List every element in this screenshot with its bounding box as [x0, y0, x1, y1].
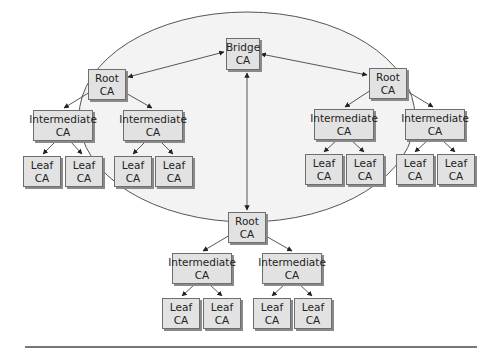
ca-label: CA [306, 314, 321, 327]
leaf-label: Leaf [170, 301, 192, 314]
root-label: Root [95, 72, 119, 85]
ca-label: CA [174, 314, 189, 327]
leaf-label: Leaf [261, 301, 283, 314]
ca-label: CA [381, 84, 396, 97]
left-intermediate-ca-box-1: Intermediate CA [33, 110, 93, 141]
leaf-label: Leaf [73, 159, 95, 172]
left-leaf-ca-box-1: Leaf CA [23, 156, 61, 187]
ca-label: CA [337, 125, 352, 138]
left-leaf-ca-box-2: Leaf CA [65, 156, 103, 187]
ca-label: CA [77, 172, 92, 185]
ca-label: CA [285, 269, 300, 282]
bottom-intermediate-ca-box-1: Intermediate CA [172, 253, 232, 284]
bottom-leaf-ca-box-1: Leaf CA [162, 298, 200, 329]
left-leaf-ca-box-3: Leaf CA [114, 156, 152, 187]
ca-label: CA [449, 170, 464, 183]
intermediate-label: Intermediate [310, 112, 378, 125]
ca-label: CA [35, 172, 50, 185]
left-intermediate-ca-box-2: Intermediate CA [123, 110, 183, 141]
leaf-label: Leaf [163, 159, 185, 172]
ca-label: CA [100, 85, 115, 98]
ca-label: CA [428, 125, 443, 138]
right-leaf-ca-box-4: Leaf CA [437, 154, 475, 185]
right-intermediate-ca-box-1: Intermediate CA [314, 109, 374, 140]
right-intermediate-ca-box-2: Intermediate CA [405, 109, 465, 140]
bridge-ca-label-1: Bridge [226, 41, 260, 54]
left-root-ca-box: Root CA [88, 69, 126, 100]
bridge-ca-box: Bridge CA [226, 38, 260, 70]
bottom-leaf-ca-box-2: Leaf CA [203, 298, 241, 329]
ca-label: CA [317, 170, 332, 183]
leaf-label: Leaf [313, 157, 335, 170]
leaf-label: Leaf [404, 157, 426, 170]
intermediate-label: Intermediate [29, 113, 97, 126]
right-root-ca-box: Root CA [369, 68, 407, 99]
bottom-divider [25, 346, 477, 348]
ca-label: CA [56, 126, 71, 139]
bottom-leaf-ca-box-4: Leaf CA [294, 298, 332, 329]
leaf-label: Leaf [31, 159, 53, 172]
root-label: Root [376, 71, 400, 84]
leaf-label: Leaf [122, 159, 144, 172]
ca-label: CA [195, 269, 210, 282]
ca-label: CA [408, 170, 423, 183]
leaf-label: Leaf [445, 157, 467, 170]
intermediate-label: Intermediate [401, 112, 469, 125]
ca-label: CA [358, 170, 373, 183]
leaf-label: Leaf [302, 301, 324, 314]
leaf-label: Leaf [211, 301, 233, 314]
bottom-intermediate-ca-box-2: Intermediate CA [262, 253, 322, 284]
bottom-root-ca-box: Root CA [228, 212, 266, 243]
right-leaf-ca-box-3: Leaf CA [396, 154, 434, 185]
ca-label: CA [265, 314, 280, 327]
ca-label: CA [240, 228, 255, 241]
ca-label: CA [167, 172, 182, 185]
bridge-ca-label-2: CA [236, 54, 251, 67]
intermediate-label: Intermediate [119, 113, 187, 126]
ca-label: CA [146, 126, 161, 139]
root-label: Root [235, 215, 259, 228]
intermediate-label: Intermediate [258, 256, 326, 269]
left-leaf-ca-box-4: Leaf CA [155, 156, 193, 187]
leaf-label: Leaf [354, 157, 376, 170]
bottom-leaf-ca-box-3: Leaf CA [253, 298, 291, 329]
right-leaf-ca-box-1: Leaf CA [305, 154, 343, 185]
ca-label: CA [215, 314, 230, 327]
right-leaf-ca-box-2: Leaf CA [346, 154, 384, 185]
ca-label: CA [126, 172, 141, 185]
intermediate-label: Intermediate [168, 256, 236, 269]
